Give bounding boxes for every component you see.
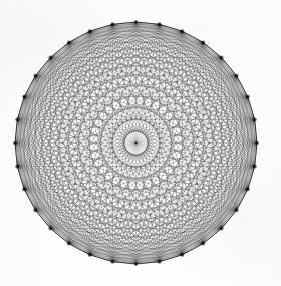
center-point <box>135 142 138 145</box>
figure-root: Complete graph drawn on the vertices of … <box>0 0 281 286</box>
complete-polygon-graph <box>0 0 281 286</box>
